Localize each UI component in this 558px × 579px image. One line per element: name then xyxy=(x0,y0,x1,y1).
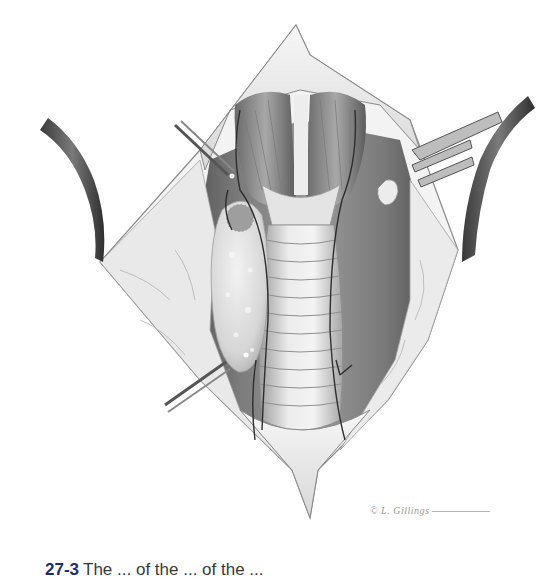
artist-signature: © L. Gillings xyxy=(370,505,490,516)
signature-text: © L. Gillings xyxy=(370,505,429,516)
midline-raphe xyxy=(294,95,308,195)
signature-underline xyxy=(432,511,490,512)
figure-caption: 27-3The ... of the ... of the ... xyxy=(45,560,264,579)
caption-text: The ... of the ... of the ... xyxy=(83,560,263,579)
retractor-left xyxy=(40,118,104,262)
figure-number: 27-3 xyxy=(45,560,79,579)
